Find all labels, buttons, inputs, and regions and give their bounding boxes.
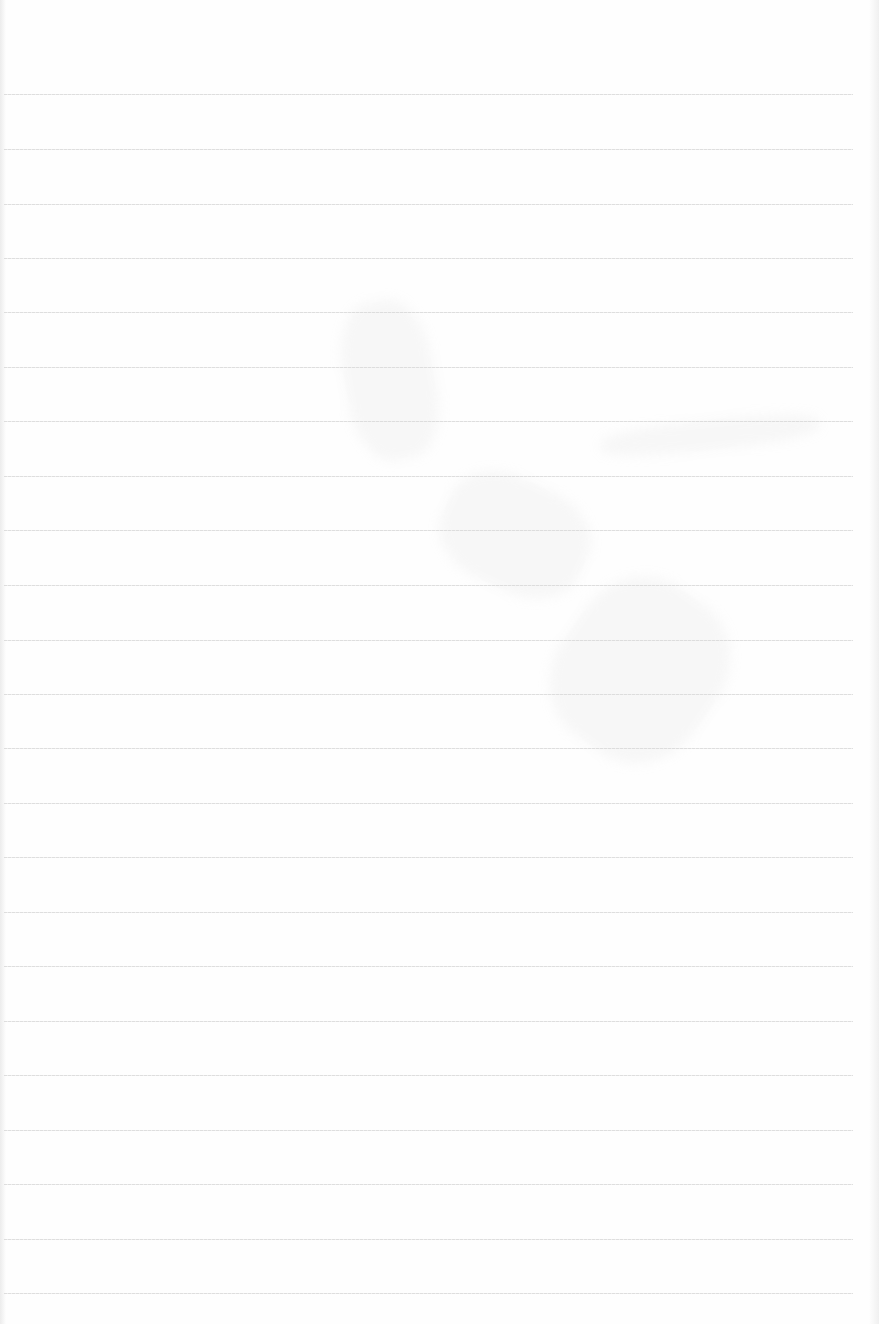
bleed-through-mark [424, 453, 606, 616]
bleed-through-mark [599, 409, 821, 462]
ruled-line [4, 421, 853, 422]
ruled-line [4, 1184, 853, 1185]
ruled-line [4, 258, 853, 259]
ruled-line [4, 966, 853, 967]
ruled-line [4, 1075, 853, 1076]
ruled-paper-page [0, 0, 879, 1324]
ruled-line [4, 585, 853, 586]
ruled-line [4, 1021, 853, 1022]
ruled-line [4, 694, 853, 695]
page-left-edge-shadow [0, 0, 6, 1324]
ruled-line [4, 204, 853, 205]
ruled-line [4, 1130, 853, 1131]
ruled-line [4, 640, 853, 641]
ruled-line [4, 1239, 853, 1240]
ruled-line [4, 803, 853, 804]
ruled-line [4, 367, 853, 368]
bleed-through-mark [332, 293, 448, 466]
ruled-line [4, 748, 853, 749]
ruled-line [4, 1293, 853, 1294]
ruled-line [4, 912, 853, 913]
ruled-line [4, 530, 853, 531]
ruled-line [4, 94, 853, 95]
ruled-line [4, 312, 853, 313]
ruled-line [4, 476, 853, 477]
ruled-line [4, 857, 853, 858]
ruled-line [4, 149, 853, 150]
page-right-edge-shadow [869, 0, 879, 1324]
